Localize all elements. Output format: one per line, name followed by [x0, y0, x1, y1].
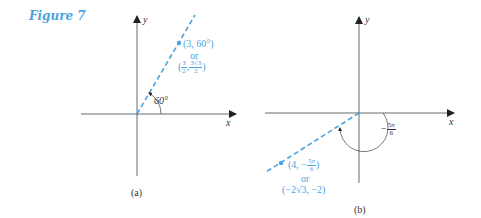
- panel-a-x-label: x: [226, 118, 230, 128]
- figure-graphics: [0, 0, 481, 218]
- panel-b-y-label: y: [365, 15, 369, 25]
- panel-b-polar-fraction: 5π6: [307, 158, 316, 173]
- panel-a-rect-point-label: (32,3√32): [178, 60, 206, 75]
- panel-b-point: [279, 161, 283, 165]
- panel-b-polar-point-label: (4, −5π6): [288, 158, 319, 173]
- panel-b-rect-point-label: (−2√3, −2): [282, 185, 325, 195]
- panel-a-rect-y-fraction: 3√32: [189, 60, 202, 75]
- panel-a-polar-point-label: (3, 60°): [183, 39, 214, 49]
- panel-b-angle-fraction: 5π6: [387, 122, 396, 137]
- panel-a-angle-label: 60°: [154, 96, 168, 106]
- panel-b-or-label: or: [301, 174, 309, 184]
- panel-a-y-label: y: [143, 15, 147, 25]
- panel-b-x-label: x: [449, 117, 453, 127]
- panel-b-caption: (b): [354, 205, 366, 215]
- panel-a-point: [177, 41, 181, 45]
- panel-a-caption: (a): [131, 188, 142, 198]
- panel-b-angle-label: −5π6: [381, 122, 396, 137]
